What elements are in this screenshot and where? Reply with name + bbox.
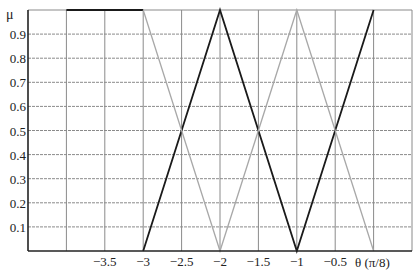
y-tick-label: 0.8 <box>10 51 26 66</box>
y-tick-label: 0.4 <box>10 148 27 163</box>
x-tick-label: −3 <box>136 254 150 269</box>
y-tick-label: 0.1 <box>10 220 26 235</box>
y-tick-label: 0.7 <box>10 75 27 90</box>
x-axis-title: θ (π/8) <box>355 255 390 270</box>
y-tick-labels: 0.10.20.30.40.50.60.70.80.9 <box>10 27 27 235</box>
y-tick-label: 0.6 <box>10 99 27 114</box>
y-tick-label: 0.9 <box>10 27 26 42</box>
x-tick-label: −2 <box>213 254 227 269</box>
grid-lines <box>28 10 412 251</box>
y-tick-label: 0.2 <box>10 196 26 211</box>
y-tick-label: 0.3 <box>10 172 26 187</box>
x-tick-label: −1.5 <box>247 254 271 269</box>
membership-function-chart: 0.10.20.30.40.50.60.70.80.9 −3.5−3−2.5−2… <box>0 0 420 273</box>
x-tick-label: −3.5 <box>93 254 117 269</box>
x-tick-label: −2.5 <box>170 254 194 269</box>
y-tick-label: 0.5 <box>10 124 26 139</box>
x-tick-label: −1 <box>290 254 304 269</box>
y-axis-title: μ <box>6 7 14 22</box>
x-tick-labels: −3.5−3−2.5−2−1.5−1−0.5 <box>93 254 347 269</box>
x-tick-label: −0.5 <box>323 254 347 269</box>
